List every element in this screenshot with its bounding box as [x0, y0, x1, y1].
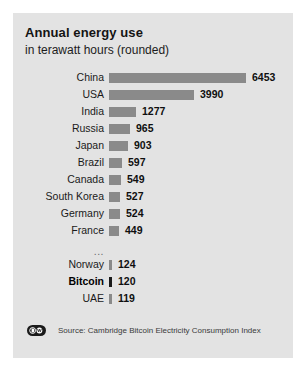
bar-rows: China 6453 USA 3990 India: [25, 69, 279, 307]
chart-page: Annual energy use in terawatt hours (rou…: [0, 0, 307, 371]
bar-row-norway: Norway 124: [25, 256, 279, 273]
bar-value: 124: [112, 259, 136, 270]
bar-value: 597: [122, 157, 146, 168]
bar-track: 597: [109, 157, 279, 168]
bar-fill: [109, 73, 246, 83]
source-text: Source: Cambridge Bitcoin Electricity Co…: [46, 326, 261, 336]
bar-row-usa: USA 3990: [25, 86, 279, 103]
bar-track: 527: [109, 191, 279, 202]
bar-value: 6453: [246, 72, 275, 83]
bar-fill: [109, 90, 194, 100]
bar-label: France: [25, 225, 109, 236]
bar-row-france: France 449: [25, 222, 279, 239]
bar-label: UAE: [25, 293, 109, 304]
bar-fill: [109, 175, 121, 185]
chart-subtitle: in terawatt hours (rounded): [25, 43, 279, 57]
bar-label: China: [25, 72, 109, 83]
bar-value: 527: [120, 191, 144, 202]
bar-fill: [109, 209, 120, 219]
chart-card: Annual energy use in terawatt hours (rou…: [13, 13, 293, 358]
bar-track: 120: [109, 276, 279, 287]
bar-row-south-korea: South Korea 527: [25, 188, 279, 205]
bar-fill: [109, 141, 128, 151]
bar-label: India: [25, 106, 109, 117]
bar-track: 449: [109, 225, 279, 236]
bar-track: 524: [109, 208, 279, 219]
bar-label: Russia: [25, 123, 109, 134]
bar-fill: [109, 226, 119, 236]
bar-row-china: China 6453: [25, 69, 279, 86]
bar-row-brazil: Brazil 597: [25, 154, 279, 171]
bar-value: 965: [130, 123, 154, 134]
bar-row-russia: Russia 965: [25, 120, 279, 137]
bar-label: Canada: [25, 174, 109, 185]
bar-fill: [109, 107, 136, 117]
bar-label: Norway: [25, 259, 109, 270]
bar-track: 119: [109, 293, 279, 304]
bar-label: South Korea: [25, 191, 109, 202]
bar-row-germany: Germany 524: [25, 205, 279, 222]
bar-track: 549: [109, 174, 279, 185]
bar-track: 6453: [109, 72, 279, 83]
chart-title: Annual energy use: [25, 25, 279, 40]
bar-row-canada: Canada 549: [25, 171, 279, 188]
bar-value: 449: [119, 225, 143, 236]
bar-label: USA: [25, 89, 109, 100]
bar-track: 124: [109, 259, 279, 270]
chart-footer: Source: Cambridge Bitcoin Electricity Co…: [25, 325, 279, 336]
bar-value: 903: [128, 140, 152, 151]
bar-label: Japan: [25, 140, 109, 151]
bar-value: 524: [120, 208, 144, 219]
bar-value: 119: [112, 293, 135, 304]
bar-value: 120: [112, 276, 136, 287]
bar-track: 903: [109, 140, 279, 151]
bar-label: Brazil: [25, 157, 109, 168]
bar-fill: [109, 158, 122, 168]
bar-row-india: India 1277: [25, 103, 279, 120]
axis-break-dots: ...: [25, 246, 109, 256]
bar-value: 549: [121, 174, 145, 185]
bar-track: 965: [109, 123, 279, 134]
bar-fill: [109, 124, 130, 134]
bar-row-uae: UAE 119: [25, 290, 279, 307]
bar-label: Bitcoin: [25, 276, 109, 287]
bar-value: 3990: [194, 89, 223, 100]
bar-track: 1277: [109, 106, 279, 117]
bar-row-japan: Japan 903: [25, 137, 279, 154]
bar-value: 1277: [136, 106, 165, 117]
dw-logo-icon: [27, 325, 46, 336]
chart-card-inner: Annual energy use in terawatt hours (rou…: [13, 13, 293, 336]
bar-fill: [109, 192, 120, 202]
bar-row-bitcoin: Bitcoin 120: [25, 273, 279, 290]
bar-track: 3990: [109, 89, 279, 100]
bar-label: Germany: [25, 208, 109, 219]
axis-break-row: ...: [25, 239, 279, 256]
